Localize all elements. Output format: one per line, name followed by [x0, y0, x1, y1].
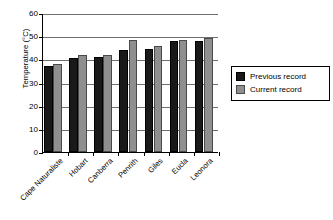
bar-current: [179, 40, 188, 152]
bar-previous: [145, 49, 154, 152]
bar-previous: [44, 66, 53, 152]
bar-group: [118, 14, 143, 152]
chart-legend: Previous recordCurrent record: [231, 66, 330, 101]
legend-item[interactable]: Current record: [236, 83, 325, 96]
bar-current: [129, 40, 138, 152]
bar-group: [93, 14, 118, 152]
y-tick-label: 0: [34, 149, 38, 157]
bar-current: [53, 64, 62, 152]
y-tick-label: 30: [29, 80, 38, 88]
bar-previous: [119, 50, 128, 152]
bar-group: [43, 14, 68, 152]
legend-swatch-previous: [236, 72, 245, 81]
y-tick-label: 60: [29, 10, 38, 18]
bar-group: [194, 14, 219, 152]
legend-label: Current record: [250, 86, 302, 94]
bar-group: [169, 14, 194, 152]
bar-previous: [195, 41, 204, 152]
bar-previous: [94, 57, 103, 152]
y-tick-mark: [39, 153, 43, 154]
y-tick-label: 10: [29, 126, 38, 134]
bar-previous: [69, 58, 78, 152]
y-tick-label: 40: [29, 56, 38, 64]
x-axis-labels: Cape NaturalisteHobartCanberraPenrithGil…: [42, 155, 292, 217]
legend-label: Previous record: [250, 73, 306, 81]
bar-chart-figure: Temperature (°C) 0102030405060 Cape Natu…: [0, 0, 333, 220]
bar-current: [78, 55, 87, 152]
bar-previous: [170, 41, 179, 152]
bar-current: [204, 38, 213, 152]
y-tick-label: 20: [29, 103, 38, 111]
bar-current: [154, 46, 163, 152]
legend-swatch-current: [236, 85, 245, 94]
legend-item[interactable]: Previous record: [236, 70, 325, 83]
plot-area: 0102030405060: [42, 14, 218, 153]
bars-layer: [43, 14, 218, 152]
y-tick-label: 50: [29, 33, 38, 41]
bar-group: [144, 14, 169, 152]
bar-current: [103, 55, 112, 152]
bar-group: [68, 14, 93, 152]
